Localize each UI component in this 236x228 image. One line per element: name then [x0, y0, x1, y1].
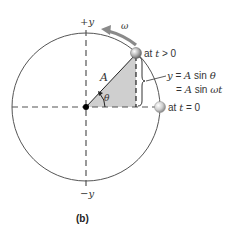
- ball-at-t-zero: [155, 102, 166, 113]
- ball-right-label: at t = 0: [168, 102, 201, 113]
- theta-label: θ: [104, 93, 110, 103]
- omega-label: ω: [121, 21, 129, 31]
- center-dot: [83, 104, 89, 110]
- phasor-circle-diagram: +y −y ω A θ at t > 0 at t = 0 y = A sin …: [0, 0, 236, 228]
- equation-line-1: y = A sin θ: [166, 70, 216, 81]
- ball-top-label: at t > 0: [144, 48, 177, 59]
- pos-y-label: +y: [80, 16, 94, 27]
- equation-leader-line: [146, 76, 166, 81]
- ball-at-t-positive: [131, 48, 142, 59]
- figure-caption: (b): [76, 213, 89, 224]
- amplitude-label: A: [99, 71, 108, 84]
- equation-line-2: = A sin ωt: [176, 84, 223, 95]
- y-brace: [138, 57, 145, 106]
- neg-y-label: −y: [80, 188, 94, 199]
- omega-arrowhead: [101, 25, 111, 35]
